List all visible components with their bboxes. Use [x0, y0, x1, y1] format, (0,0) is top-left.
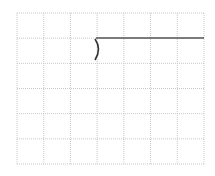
grid-diagram [0, 0, 215, 176]
dotted-grid [17, 13, 204, 164]
